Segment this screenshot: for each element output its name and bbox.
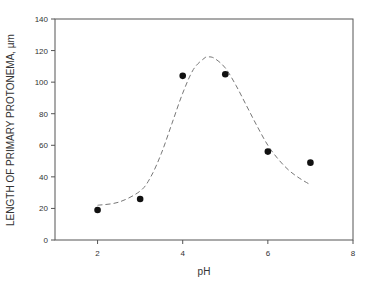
y-tick-label: 60	[39, 141, 48, 150]
y-axis-title: LENGTH OF PRIMARY PROTONEMA, µm	[5, 34, 16, 226]
y-tick-label: 80	[39, 110, 48, 119]
y-tick-label: 20	[39, 204, 48, 213]
data-point	[307, 159, 314, 166]
chart: 020406080100120140 2468 pH LENGTH OF PRI…	[0, 0, 370, 290]
y-tick-label: 100	[35, 78, 49, 87]
x-tick-label: 4	[180, 249, 185, 258]
data-points	[94, 71, 313, 213]
data-point	[265, 148, 272, 155]
plot-frame	[55, 19, 353, 240]
x-axis-title: pH	[198, 266, 211, 277]
data-point	[137, 196, 144, 203]
data-point	[94, 207, 101, 214]
plot-border	[55, 19, 353, 240]
x-axis: 2468	[95, 240, 355, 258]
y-tick-label: 120	[35, 47, 49, 56]
x-tick-label: 6	[266, 249, 271, 258]
fitted-curve	[98, 57, 311, 205]
x-tick-label: 8	[351, 249, 356, 258]
x-tick-label: 2	[95, 249, 100, 258]
y-tick-label: 40	[39, 173, 48, 182]
y-tick-label: 140	[35, 15, 49, 24]
data-point	[179, 73, 186, 80]
y-axis: 020406080100120140	[35, 15, 55, 245]
y-tick-label: 0	[44, 236, 49, 245]
data-point	[222, 71, 229, 78]
